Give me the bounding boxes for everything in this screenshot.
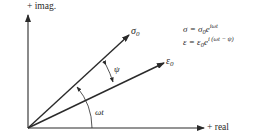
omega-t-arc	[77, 87, 92, 128]
strain-equation: ε = ε0ei (ωt − ψ)	[183, 36, 234, 49]
phasor-diagram	[0, 0, 260, 138]
sigma-vector	[28, 35, 129, 128]
epsilon-vector	[28, 63, 164, 128]
epsilon-subscript: 0	[170, 60, 174, 68]
psi-arc	[106, 65, 113, 82]
real-axis-label: + real	[207, 123, 229, 133]
sigma-subscript: 0	[136, 30, 140, 38]
sigma-label: σ0	[131, 26, 139, 38]
omega-t-label: ωt	[95, 108, 104, 117]
epsilon-label: ε0	[166, 56, 173, 68]
stress-equation: σ = σ0eiωt	[183, 23, 218, 36]
psi-label: ψ	[114, 65, 120, 74]
imaginary-axis-label: + imag.	[27, 2, 56, 12]
